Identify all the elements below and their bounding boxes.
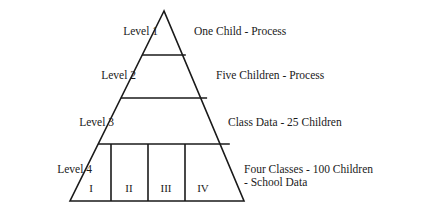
level-4-label: Level 4 (57, 163, 92, 176)
pyramid-diagram: Level 1 Level 2 Level 3 Level 4 One Chil… (0, 0, 426, 217)
level-1-description: One Child - Process (194, 25, 286, 38)
base-cell-label-1: I (76, 182, 106, 194)
base-cell-label-2: II (114, 182, 144, 194)
base-cell-label-4: IV (188, 182, 218, 194)
base-cell-label-3: III (151, 182, 181, 194)
level-4-description-line-2: - School Data (244, 176, 373, 189)
level-3-description: Class Data - 25 Children (228, 116, 342, 129)
level-4-description: Four Classes - 100 Children - School Dat… (244, 163, 373, 189)
level-4-description-line-1: Four Classes - 100 Children (244, 163, 373, 176)
level-3-label: Level 3 (79, 116, 114, 129)
triangle-outline (70, 11, 244, 201)
level-1-label: Level 1 (123, 25, 158, 38)
level-2-description: Five Children - Process (216, 69, 324, 82)
level-2-label: Level 2 (101, 69, 136, 82)
